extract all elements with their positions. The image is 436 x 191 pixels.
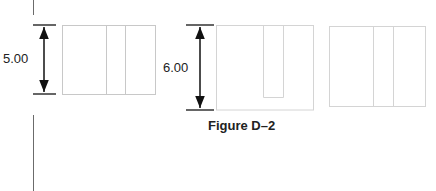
dimension-5-00 — [33, 25, 56, 94]
figure-caption: Figure D–2 — [208, 118, 275, 133]
dimension-6-00 — [186, 25, 214, 110]
left-panel — [63, 26, 156, 95]
right-panel — [330, 27, 426, 107]
figure-canvas — [0, 0, 436, 191]
dimension-label-6-00: 6.00 — [163, 61, 188, 74]
middle-panel — [217, 26, 314, 111]
dimension-label-5-00: 5.00 — [3, 52, 28, 65]
